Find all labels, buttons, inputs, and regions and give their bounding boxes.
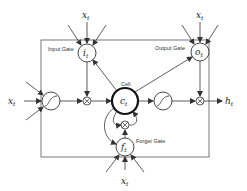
block-inputs bbox=[24, 82, 43, 120]
input-multiply-node bbox=[83, 97, 91, 105]
cell-to-output-gate-peephole bbox=[135, 57, 192, 92]
cell-node: ct bbox=[112, 88, 138, 114]
input-gate-label: Input Gate bbox=[48, 46, 74, 52]
ht-label: ht bbox=[225, 96, 234, 107]
cell-to-input-gate-peephole bbox=[93, 60, 117, 91]
output-multiply-node bbox=[196, 97, 204, 105]
input-gate-node: it bbox=[78, 44, 96, 62]
output-gate-inputs bbox=[182, 22, 218, 44]
forget-multiply-node bbox=[121, 121, 129, 129]
output-gate-node: ot bbox=[191, 43, 209, 61]
cell-label: Cell bbox=[121, 81, 130, 87]
forget-gate-node: ft bbox=[116, 138, 134, 156]
forget-gate-inputs bbox=[106, 155, 144, 172]
cell-to-forget-gate-peephole bbox=[104, 108, 116, 144]
bottom-xt-label: xt bbox=[121, 176, 129, 187]
input-sigmoid-node bbox=[42, 92, 60, 110]
forget-gate-label: Forget Gate bbox=[136, 138, 165, 144]
input-gate-xt-label: xt bbox=[82, 10, 90, 21]
output-tanh-node bbox=[154, 92, 172, 110]
lstm-diagram: xt xt xt xt it Input Gate ot Output Gate bbox=[0, 0, 247, 191]
left-xt-label: xt bbox=[8, 96, 16, 107]
input-gate-inputs bbox=[68, 22, 106, 45]
output-gate-xt-label: xt bbox=[196, 10, 204, 21]
output-gate-label: Output Gate bbox=[155, 45, 185, 51]
